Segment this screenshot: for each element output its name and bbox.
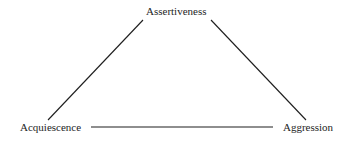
- node-label-assertiveness: Assertiveness: [146, 5, 207, 17]
- node-label-acquiescence: Acquiescence: [20, 121, 81, 133]
- edge-assertiveness-aggression: [211, 20, 306, 120]
- diagram-edges: [0, 0, 356, 141]
- node-label-aggression: Aggression: [283, 121, 333, 133]
- edge-assertiveness-acquiescence: [48, 20, 143, 120]
- triangle-diagram: Assertiveness Acquiescence Aggression: [0, 0, 356, 141]
